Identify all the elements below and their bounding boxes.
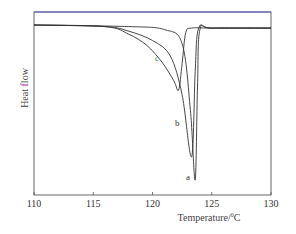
y-axis-title: Heat flow: [19, 67, 30, 108]
x-tick-label: 130: [264, 198, 279, 209]
y-axis-title-part: low: [19, 67, 30, 83]
x-axis-title-unit: C: [234, 212, 241, 223]
curve-b: [34, 25, 271, 157]
curve-a: [34, 25, 271, 180]
dsc-chart: 110115120125130 a b c Heat flow Temperat…: [0, 0, 296, 234]
x-tick-label: 110: [27, 198, 42, 209]
x-axis-title: Temperature/0C: [178, 212, 241, 223]
x-tick-label: 115: [86, 198, 101, 209]
curve-label-c: c: [155, 53, 159, 63]
curves-group: [34, 25, 271, 180]
x-tick-label: 125: [204, 198, 219, 209]
curve-c: [34, 25, 271, 91]
curve-label-a: a: [186, 172, 190, 182]
plot-frame: [34, 12, 271, 195]
curve-label-b: b: [175, 118, 180, 128]
x-tick-label: 120: [145, 198, 160, 209]
y-axis-title-part: Heat: [19, 86, 30, 107]
x-axis-title-text: Temperature/: [178, 212, 231, 223]
